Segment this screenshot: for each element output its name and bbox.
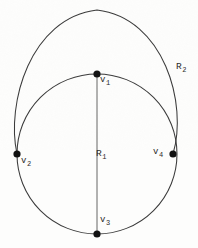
vertex-dot-v3 — [93, 230, 100, 237]
vertex-label-v2: v2 — [21, 157, 31, 166]
vertex-label-v3: v3 — [100, 216, 110, 225]
region-label-R2: R2 — [176, 62, 186, 72]
figure-canvas: v1 v2 v3 v4 R1 R2 — [0, 0, 198, 248]
diagram-svg — [0, 0, 198, 248]
vertex-label-v4: v4 — [153, 148, 163, 157]
vertex-dot-v2 — [13, 150, 20, 157]
region-label-R1: R1 — [96, 149, 106, 159]
vertex-dot-v4 — [169, 150, 176, 157]
vertex-label-v1: v1 — [100, 76, 110, 85]
outer-arc-R2 — [14, 10, 177, 154]
